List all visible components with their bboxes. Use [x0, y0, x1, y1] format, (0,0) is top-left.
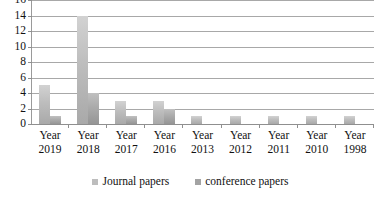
y-tick-label: 2	[20, 103, 26, 115]
bar-journal	[153, 101, 164, 124]
y-axis: 1614121086420	[0, 0, 30, 124]
x-tick-label-line: Year	[31, 129, 69, 143]
bar-journal	[115, 101, 126, 124]
x-tick-label-line: Year	[183, 129, 221, 143]
bar-journal	[230, 116, 241, 124]
plot-area: 1614121086420 Year2019Year2018Year2017Ye…	[0, 0, 381, 140]
legend-item[interactable]: Journal papers	[92, 176, 169, 188]
x-tick-label-line: Year	[260, 129, 298, 143]
bar-conference	[88, 93, 99, 124]
bar-journal	[191, 116, 202, 124]
x-tick-label: Year2016	[145, 129, 183, 161]
x-tick-label-line: Year	[69, 129, 107, 143]
x-tick-label-line: 2016	[145, 143, 183, 157]
y-tick-label: 0	[20, 118, 26, 130]
x-tick-mark	[260, 124, 298, 128]
x-tick-label-line: Year	[298, 129, 336, 143]
x-tick-label: Year2012	[222, 129, 260, 161]
x-tick-label: Year1998	[336, 129, 374, 161]
x-tick-mark	[107, 124, 145, 128]
bar-group	[260, 0, 298, 124]
x-tick-label-line: Year	[107, 129, 145, 143]
x-tick-label-line: 2013	[183, 143, 221, 157]
bar-conference	[126, 116, 137, 124]
x-tick-label: Year2011	[260, 129, 298, 161]
x-tick-label-line: Year	[145, 129, 183, 143]
bar-journal	[306, 116, 317, 124]
y-tick-label: 6	[20, 72, 26, 84]
legend-label: Journal papers	[102, 176, 169, 188]
x-axis-labels: Year2019Year2018Year2017Year2016Year2013…	[31, 129, 374, 161]
y-tick-label: 10	[15, 41, 27, 53]
x-tick-mark	[69, 124, 107, 128]
bar-group	[298, 0, 336, 124]
bar-group	[69, 0, 107, 124]
x-tick-label: Year2010	[298, 129, 336, 161]
bar-journal	[39, 85, 50, 124]
y-tick-label: 12	[15, 25, 27, 37]
x-tick-label: Year2018	[69, 129, 107, 161]
x-tick-label-line: 2017	[107, 143, 145, 157]
bar-conference	[164, 109, 175, 125]
x-tick-label-line: 2010	[298, 143, 336, 157]
y-tick-label: 4	[20, 87, 26, 99]
x-tick-label-line: 2012	[222, 143, 260, 157]
legend-swatch-icon	[92, 179, 98, 185]
bar-group	[145, 0, 183, 124]
x-tick-label-line: 2011	[260, 143, 298, 157]
x-axis-ticks	[31, 124, 374, 128]
legend-swatch-icon	[195, 179, 201, 185]
bar-group	[183, 0, 221, 124]
bars-layer	[31, 0, 374, 124]
y-tick-label: 14	[15, 10, 27, 22]
x-tick-label-line: Year	[222, 129, 260, 143]
x-tick-mark	[222, 124, 260, 128]
bar-journal	[344, 116, 355, 124]
x-tick-label: Year2017	[107, 129, 145, 161]
bar-group	[222, 0, 260, 124]
y-tick-label: 16	[15, 0, 27, 6]
legend-label: conference papers	[205, 176, 288, 188]
bar-group	[107, 0, 145, 124]
chart-legend: Journal papersconference papers	[0, 176, 381, 188]
x-tick-mark	[145, 124, 183, 128]
x-tick-label: Year2019	[31, 129, 69, 161]
bar-journal	[77, 16, 88, 125]
bar-journal	[268, 116, 279, 124]
x-tick-label-line: 1998	[336, 143, 374, 157]
x-tick-mark	[183, 124, 221, 128]
bar-conference	[50, 116, 61, 124]
x-tick-label-line: 2018	[69, 143, 107, 157]
x-tick-mark	[298, 124, 336, 128]
x-tick-mark	[31, 124, 69, 128]
legend-item[interactable]: conference papers	[195, 176, 288, 188]
x-tick-label: Year2013	[183, 129, 221, 161]
x-tick-label-line: Year	[336, 129, 374, 143]
bar-chart: 1614121086420 Year2019Year2018Year2017Ye…	[0, 0, 381, 204]
bar-group	[31, 0, 69, 124]
x-tick-label-line: 2019	[31, 143, 69, 157]
bar-group	[336, 0, 374, 124]
x-tick-mark	[336, 124, 374, 128]
y-tick-label: 8	[20, 56, 26, 68]
